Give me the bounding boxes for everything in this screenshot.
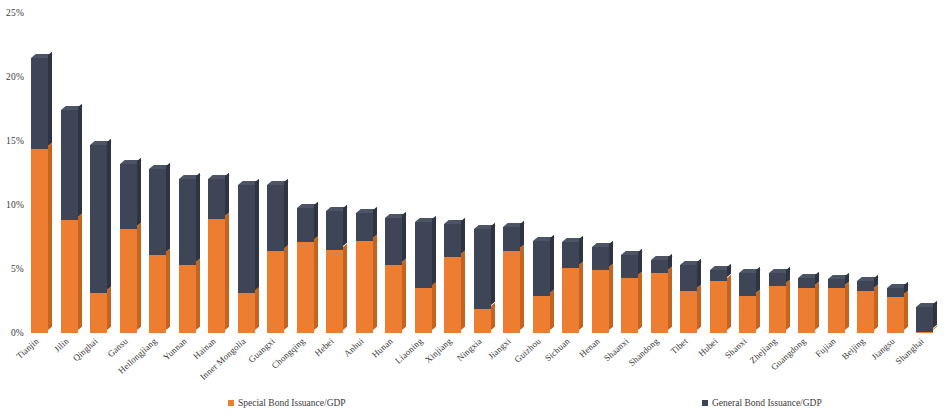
- stacked-bar: [474, 229, 491, 333]
- legend-swatch-special-icon: [228, 400, 234, 406]
- x-axis-tick-label: Tianjin: [14, 336, 40, 361]
- bar-column: [146, 13, 176, 333]
- bar-column: [913, 13, 943, 333]
- stacked-bar: [828, 279, 845, 333]
- y-axis-tick-label: 15%: [6, 136, 24, 146]
- bar-column: [736, 13, 766, 333]
- bar-segment-general-bond: [208, 179, 225, 219]
- x-axis-label-slot: Shandong: [648, 333, 678, 395]
- stacked-bar: [90, 145, 107, 333]
- stacked-bar: [61, 110, 78, 333]
- bar-segment-special-bond: [857, 291, 874, 333]
- bar-segment-special-bond: [238, 293, 255, 333]
- bar-column: [589, 13, 619, 333]
- bar-segment-special-bond: [533, 296, 550, 333]
- x-axis-label-slot: Shanxi: [736, 333, 766, 395]
- bar-segment-general-bond: [415, 222, 432, 289]
- bar-segment-general-bond: [385, 218, 402, 265]
- bar-segment-general-bond: [562, 242, 579, 268]
- bar-segment-special-bond: [651, 273, 668, 333]
- stacked-bar: [710, 270, 727, 333]
- bar-segment-special-bond: [61, 220, 78, 333]
- bar-column: [264, 13, 294, 333]
- stacked-bar: [149, 169, 166, 333]
- x-axis-label-slot: Henan: [589, 333, 619, 395]
- bar-segment-special-bond: [828, 288, 845, 333]
- x-axis-label-slot: Guizhou: [530, 333, 560, 395]
- bar-series-container: [28, 13, 943, 333]
- legend-label-special: Special Bond Issuance/GDP: [238, 398, 346, 408]
- stacked-bar: [385, 218, 402, 333]
- bar-segment-special-bond: [356, 241, 373, 333]
- bar-segment-general-bond: [474, 229, 491, 308]
- bar-column: [205, 13, 235, 333]
- bar-segment-general-bond: [503, 227, 520, 251]
- x-axis-labels: TianjinJilinQinghaiGansuHeilongjiangYunn…: [28, 333, 943, 395]
- legend-item-general-bond: General Bond Issuance/GDP: [702, 398, 822, 408]
- y-axis-tick-label: 20%: [6, 72, 24, 82]
- x-axis-label-slot: Jiangxi: [500, 333, 530, 395]
- bar-segment-special-bond: [90, 293, 107, 333]
- stacked-bar: [297, 208, 314, 333]
- stacked-bar: [739, 273, 756, 333]
- legend-swatch-general-icon: [702, 400, 708, 406]
- bar-column: [28, 13, 58, 333]
- bar-column: [677, 13, 707, 333]
- bar-segment-special-bond: [326, 250, 343, 333]
- legend-label-general: General Bond Issuance/GDP: [712, 398, 822, 408]
- stacked-bar: [621, 255, 638, 333]
- bar-column: [382, 13, 412, 333]
- bar-segment-special-bond: [592, 270, 609, 333]
- x-axis-label-slot: Ningxia: [471, 333, 501, 395]
- stacked-bar: [503, 227, 520, 333]
- bar-segment-general-bond: [592, 247, 609, 270]
- bar-segment-general-bond: [621, 255, 638, 278]
- bar-segment-general-bond: [297, 208, 314, 243]
- bar-column: [412, 13, 442, 333]
- x-axis-label-slot: Anhui: [353, 333, 383, 395]
- bar-segment-general-bond: [739, 273, 756, 296]
- bar-column: [707, 13, 737, 333]
- bar-segment-general-bond: [444, 224, 461, 257]
- bar-segment-special-bond: [444, 257, 461, 333]
- x-axis-label-slot: Shanghai: [913, 333, 943, 395]
- bar-segment-general-bond: [916, 307, 933, 331]
- bar-column: [441, 13, 471, 333]
- bar-segment-special-bond: [680, 291, 697, 333]
- x-axis-label-slot: Hubei: [707, 333, 737, 395]
- bar-column: [559, 13, 589, 333]
- bar-segment-general-bond: [828, 279, 845, 288]
- x-axis-label-slot: Beijing: [854, 333, 884, 395]
- bar-column: [884, 13, 914, 333]
- stacked-bar: [444, 224, 461, 333]
- bar-segment-special-bond: [710, 281, 727, 333]
- bar-segment-special-bond: [267, 251, 284, 333]
- bar-column: [766, 13, 796, 333]
- bar-column: [235, 13, 265, 333]
- bar-column: [500, 13, 530, 333]
- x-axis-label-slot: Inner Mongolia: [235, 333, 265, 395]
- bar-segment-special-bond: [887, 297, 904, 333]
- stacked-bar: [238, 185, 255, 333]
- bar-segment-special-bond: [503, 251, 520, 333]
- x-axis-label-slot: Sichuan: [559, 333, 589, 395]
- stacked-bar: [356, 213, 373, 333]
- x-axis-label-slot: Liaoning: [412, 333, 442, 395]
- y-axis-tick-label: 5%: [11, 264, 24, 274]
- stacked-bar: [680, 265, 697, 333]
- bar-segment-special-bond: [562, 268, 579, 333]
- stacked-bar: [208, 179, 225, 333]
- x-axis-label-slot: Tianjin: [28, 333, 58, 395]
- stacked-bar: [857, 281, 874, 333]
- bar-segment-general-bond: [179, 179, 196, 265]
- bar-column: [58, 13, 88, 333]
- y-axis-tick-label: 25%: [6, 8, 24, 18]
- bar-segment-general-bond: [887, 288, 904, 297]
- bar-segment-special-bond: [297, 242, 314, 333]
- bar-segment-special-bond: [621, 278, 638, 333]
- bar-segment-general-bond: [769, 273, 786, 286]
- bar-segment-special-bond: [385, 265, 402, 333]
- bar-column: [87, 13, 117, 333]
- y-axis: 25%20%15%10%5%0%: [0, 0, 28, 333]
- bar-segment-general-bond: [120, 164, 137, 229]
